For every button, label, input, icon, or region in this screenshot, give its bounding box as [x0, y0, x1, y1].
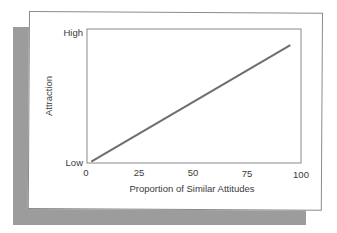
x-tick-50: 50: [188, 167, 199, 178]
plot-area: [87, 29, 301, 163]
y-tick-low: Low: [66, 157, 84, 168]
x-axis-title: Proportion of Similar Attitudes: [129, 183, 254, 194]
y-tick-high: High: [63, 27, 83, 38]
line-chart: High Low 0 25 50 75 100 Proportion of Si…: [0, 0, 337, 233]
x-tick-100: 100: [293, 169, 309, 180]
x-tick-25: 25: [134, 167, 145, 178]
attraction-line: [91, 45, 290, 162]
x-tick-75: 75: [242, 168, 253, 179]
y-axis-title: Attraction: [43, 76, 54, 116]
x-tick-0: 0: [83, 167, 88, 178]
